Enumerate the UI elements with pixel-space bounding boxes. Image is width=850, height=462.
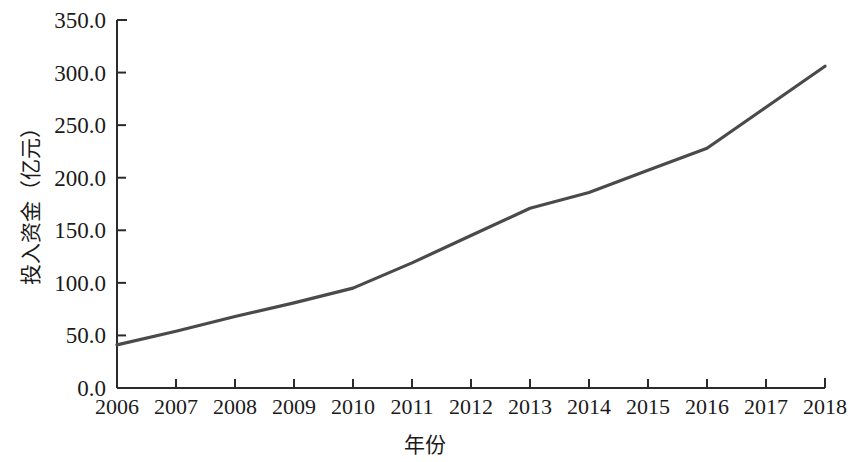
y-axis-ticks [117,20,126,388]
axes [117,20,825,388]
line-chart: 投入资金（亿元） 0.050.0100.0150.0200.0250.0300.… [0,0,850,462]
data-series-line [117,66,825,345]
chart-canvas [0,0,850,462]
x-axis-ticks [117,379,825,388]
